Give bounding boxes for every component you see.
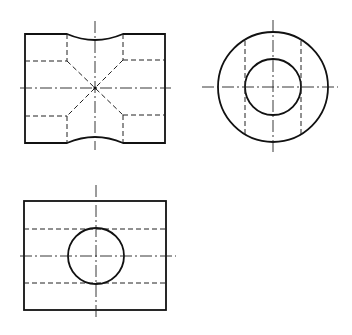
technical-drawing [0, 0, 352, 335]
center-point [93, 86, 96, 89]
side-view [202, 20, 338, 153]
top-outline [24, 201, 166, 310]
front-view [20, 21, 171, 150]
top-view [20, 185, 176, 317]
